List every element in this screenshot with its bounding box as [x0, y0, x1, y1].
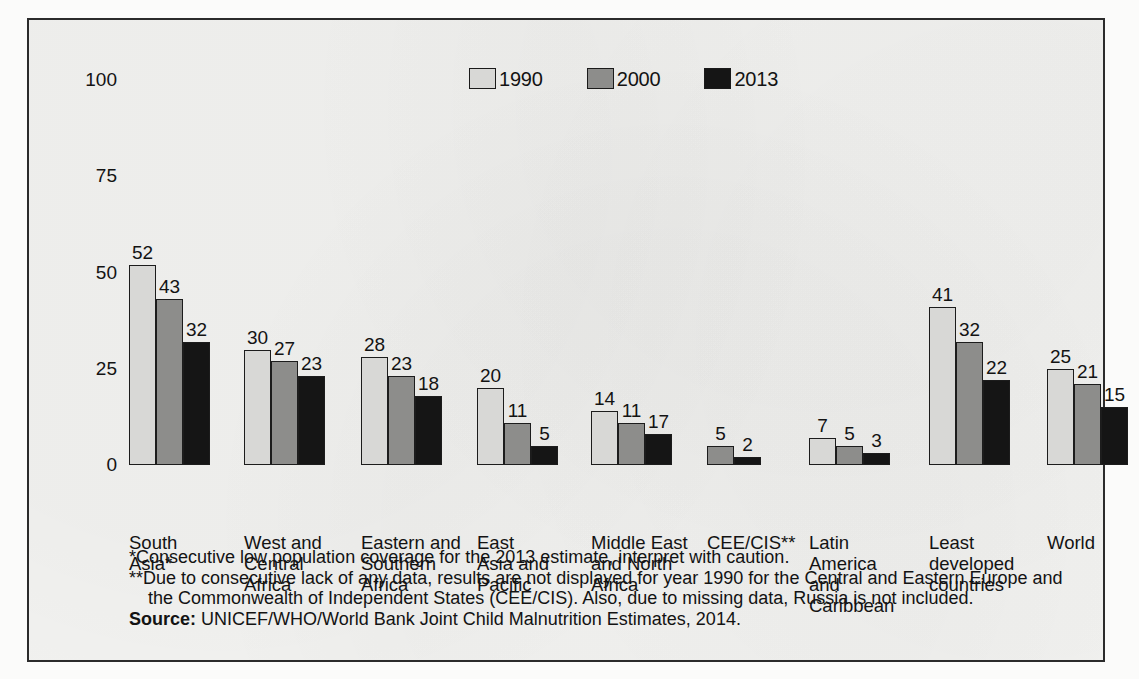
source-text: UNICEF/WHO/World Bank Joint Child Malnut… [201, 609, 741, 629]
bar-group-bars: 20115 [477, 80, 558, 465]
bar-2013 [298, 376, 325, 465]
bar-1990 [477, 388, 504, 465]
bar-column: 43 [156, 80, 183, 465]
bar-column: 41 [929, 80, 956, 465]
y-axis-tick-75: 75 [96, 165, 117, 187]
bar-value-label: 14 [594, 389, 615, 408]
plot-area: 0255075100524332South Asia*302723West an… [129, 80, 1089, 465]
bar-2013 [183, 342, 210, 465]
bar-value-label: 11 [508, 401, 528, 420]
bar-column: 21 [1074, 80, 1101, 465]
bar-2013 [983, 380, 1010, 465]
bar-value-label: 30 [247, 328, 268, 347]
bar-1990 [1047, 369, 1074, 465]
y-axis-tick-25: 25 [96, 358, 117, 380]
bar-value-label: 43 [159, 277, 180, 296]
bar-value-label: 32 [959, 320, 980, 339]
bar-2013 [415, 396, 442, 465]
bar-column: 52 [129, 80, 156, 465]
bar-1990 [591, 411, 618, 465]
footnote-asterisk: *Consecutive low population coverage for… [129, 547, 1089, 568]
bar-column: 30 [244, 80, 271, 465]
bar-2000 [388, 376, 415, 465]
y-axis-tick-0: 0 [106, 454, 117, 476]
source-line: Source: UNICEF/WHO/World Bank Joint Chil… [129, 609, 1089, 630]
bar-2000 [956, 342, 983, 465]
bar-group-bars: 141117 [591, 80, 672, 465]
bar-value-label: 28 [364, 335, 385, 354]
bar-value-label: 3 [871, 431, 882, 450]
bar-2000 [707, 446, 734, 465]
bar-value-label: 18 [418, 374, 439, 393]
bar-2000 [836, 446, 863, 465]
bar-column: 3 [863, 80, 890, 465]
bar-2013 [734, 457, 761, 465]
bar-column: 32 [183, 80, 210, 465]
bar-1990 [129, 265, 156, 465]
bar-value-label: 17 [648, 412, 669, 431]
chart-frame: 199020002013 0255075100524332South Asia*… [27, 18, 1105, 662]
bar-value-label: 5 [715, 424, 726, 443]
bar-column: 17 [645, 80, 672, 465]
bar-column: 14 [591, 80, 618, 465]
bar-value-label: 41 [932, 285, 953, 304]
bar-2000 [1074, 384, 1101, 465]
bar-1990 [809, 438, 836, 465]
bar-2013 [645, 434, 672, 465]
bar-group-bars: 52 [707, 80, 761, 465]
footnote-double-asterisk: **Due to consecutive lack of any data, r… [129, 568, 1089, 609]
bar-column: 15 [1101, 80, 1128, 465]
bar-value-label: 5 [844, 424, 855, 443]
bar-value-label: 15 [1104, 385, 1125, 404]
bar-group-bars: 753 [809, 80, 890, 465]
bar-2000 [504, 423, 531, 465]
bar-group-bars: 413222 [929, 80, 1010, 465]
bar-2000 [618, 423, 645, 465]
bar-value-label: 32 [186, 320, 207, 339]
bar-group-bars: 282318 [361, 80, 442, 465]
bar-column: 20 [477, 80, 504, 465]
bar-value-label: 27 [274, 339, 295, 358]
bar-value-label: 20 [480, 366, 501, 385]
bar-group-bars: 524332 [129, 80, 210, 465]
bar-column: 23 [388, 80, 415, 465]
bar-column: 2 [734, 80, 761, 465]
bar-1990 [929, 307, 956, 465]
bar-2013 [1101, 407, 1128, 465]
bar-value-label: 23 [391, 354, 412, 373]
bar-2000 [156, 299, 183, 465]
bar-group-bars: 302723 [244, 80, 325, 465]
bar-value-label: 23 [301, 354, 322, 373]
bar-value-label: 22 [986, 358, 1007, 377]
bar-column: 25 [1047, 80, 1074, 465]
bar-value-label: 5 [539, 424, 550, 443]
bar-column: 18 [415, 80, 442, 465]
bar-1990 [244, 350, 271, 466]
source-label: Source: [129, 609, 196, 629]
bar-2013 [863, 453, 890, 465]
bar-value-label: 7 [817, 416, 828, 435]
bar-value-label: 25 [1050, 347, 1071, 366]
bar-column: 23 [298, 80, 325, 465]
bar-1990 [361, 357, 388, 465]
bar-column: 5 [531, 80, 558, 465]
bar-value-label: 52 [132, 243, 153, 262]
y-axis-tick-100: 100 [85, 69, 117, 91]
bar-value-label: 2 [742, 435, 753, 454]
bar-column: 11 [504, 80, 531, 465]
footnotes: *Consecutive low population coverage for… [129, 547, 1089, 629]
bar-column: 11 [618, 80, 645, 465]
bar-column: 28 [361, 80, 388, 465]
bar-column: 7 [809, 80, 836, 465]
bar-column: 5 [836, 80, 863, 465]
bar-column: 32 [956, 80, 983, 465]
bar-2013 [531, 446, 558, 465]
chart-page: 199020002013 0255075100524332South Asia*… [0, 0, 1139, 679]
bar-2000 [271, 361, 298, 465]
bar-column: 5 [707, 80, 734, 465]
bar-value-label: 11 [622, 401, 642, 420]
bar-group-bars: 252115 [1047, 80, 1128, 465]
y-axis-tick-50: 50 [96, 262, 117, 284]
bar-column: 22 [983, 80, 1010, 465]
bar-column: 27 [271, 80, 298, 465]
